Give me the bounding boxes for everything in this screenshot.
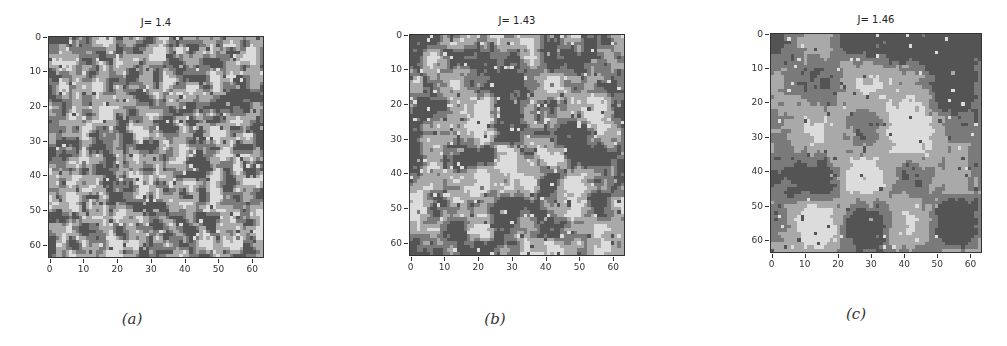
y-tick-label: 20 xyxy=(21,101,41,111)
x-tick-label: 60 xyxy=(240,264,264,274)
x-tick-label: 40 xyxy=(173,264,197,274)
heatmap-b-canvas xyxy=(410,35,624,255)
x-tick-label: 20 xyxy=(826,259,850,269)
y-tick-label: 20 xyxy=(743,97,763,107)
panel-c-title: J= 1.46 xyxy=(836,14,916,25)
panel-c-caption: (c) xyxy=(836,305,876,323)
x-tick-label: 40 xyxy=(892,259,916,269)
y-tick-label: 10 xyxy=(382,64,402,74)
y-tick-label: 40 xyxy=(382,168,402,178)
x-tick-label: 0 xyxy=(760,259,784,269)
y-tick-label: 40 xyxy=(743,166,763,176)
y-tick-label: 10 xyxy=(21,66,41,76)
y-tick-label: 10 xyxy=(743,63,763,73)
y-tick-label: 60 xyxy=(743,235,763,245)
x-tick-label: 20 xyxy=(466,262,490,272)
y-tick-label: 0 xyxy=(21,32,41,42)
y-tick-label: 50 xyxy=(743,201,763,211)
y-tick-label: 50 xyxy=(21,205,41,215)
x-tick-label: 10 xyxy=(432,262,456,272)
y-tick-label: 60 xyxy=(382,238,402,248)
x-tick-label: 50 xyxy=(567,262,591,272)
panel-a-title: J= 1.4 xyxy=(116,17,196,28)
x-tick-label: 30 xyxy=(500,262,524,272)
y-tick-label: 30 xyxy=(743,132,763,142)
x-tick-label: 10 xyxy=(71,264,95,274)
y-tick-label: 60 xyxy=(21,240,41,250)
x-tick-label: 30 xyxy=(859,259,883,269)
heatmap-c-canvas xyxy=(771,34,981,252)
x-tick-label: 60 xyxy=(601,262,625,272)
x-tick-label: 0 xyxy=(38,264,62,274)
y-tick-label: 50 xyxy=(382,203,402,213)
x-tick-label: 60 xyxy=(958,259,982,269)
y-tick-label: 0 xyxy=(382,30,402,40)
x-tick-label: 50 xyxy=(206,264,230,274)
heatmap-b xyxy=(409,34,625,256)
x-tick-label: 20 xyxy=(105,264,129,274)
x-tick-label: 40 xyxy=(534,262,558,272)
heatmap-c xyxy=(770,33,982,253)
panel-b-caption: (b) xyxy=(475,310,515,328)
y-tick-label: 40 xyxy=(21,170,41,180)
y-tick-label: 0 xyxy=(743,29,763,39)
x-tick-label: 30 xyxy=(139,264,163,274)
y-tick-label: 30 xyxy=(382,134,402,144)
y-tick-label: 30 xyxy=(21,136,41,146)
panel-a-caption: (a) xyxy=(112,310,152,328)
x-tick-label: 0 xyxy=(399,262,423,272)
x-tick-label: 10 xyxy=(793,259,817,269)
panel-b-title: J= 1.43 xyxy=(477,15,557,26)
heatmap-a-canvas xyxy=(49,37,263,257)
y-tick-label: 20 xyxy=(382,99,402,109)
heatmap-a xyxy=(48,36,264,258)
x-tick-label: 50 xyxy=(925,259,949,269)
